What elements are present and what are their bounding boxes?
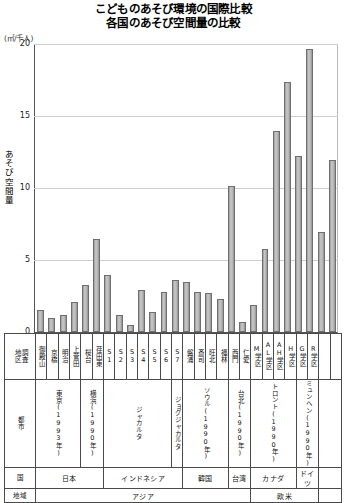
bar-cell — [304, 44, 315, 332]
district-label: 荏田東 — [95, 346, 102, 366]
district-label: 明治 — [61, 349, 68, 363]
bar — [217, 299, 224, 332]
row-header-country: 国 — [5, 468, 36, 489]
district-cell: S1 — [103, 334, 114, 380]
district-cell: H学区 — [285, 334, 296, 380]
bar-cell — [136, 44, 147, 332]
district-cell: S4 — [137, 334, 148, 380]
district-label: AL学区 — [264, 341, 271, 370]
table-row-city: 都市 東京(1993年)横浜(1990年)ジャカルタジョグジャカルタソウル(19… — [5, 380, 342, 468]
city-cell: ジャカルタ — [103, 380, 171, 468]
city-label: 台北(1990年) — [236, 390, 243, 456]
bar — [116, 315, 123, 332]
district-cell: 上菅田 — [69, 334, 80, 380]
table-row-region: 地域 アジア欧米 — [5, 489, 342, 503]
district-label: AH学区 — [276, 341, 283, 370]
bar — [48, 318, 55, 332]
city-cell: ソウル(1990年) — [183, 380, 228, 468]
group-cell: アジア — [36, 489, 251, 503]
bar-cell — [315, 44, 326, 332]
district-cell: S2 — [115, 334, 126, 380]
metadata-table-element: 地区調査 御殿山京橋明治上菅田桜台荏田東S1S2S3S4S5S6S7盤浦斎司旺北… — [4, 333, 342, 503]
city-label: ジョグジャカルタ — [174, 396, 181, 450]
bar-cell — [203, 44, 214, 332]
row-header-region: 地域 — [5, 489, 36, 503]
group-cell: カナダ — [251, 468, 296, 489]
filler-cell — [319, 468, 342, 489]
title-line-2: 各国のあそび空間量の比較 — [0, 16, 347, 30]
bar-cell — [192, 44, 203, 332]
bar — [172, 280, 179, 332]
city-cell: 横浜(1990年) — [81, 380, 104, 468]
bar-cell — [147, 44, 158, 332]
district-label: R学区 — [310, 345, 317, 366]
city-label: ソウル(1990年) — [202, 387, 209, 460]
bar — [284, 82, 291, 332]
bar-cell — [69, 44, 80, 332]
bar-cell — [35, 44, 46, 332]
bar — [104, 275, 111, 332]
city-label: 横浜(1990年) — [89, 390, 96, 456]
bar-cell — [226, 44, 237, 332]
y-axis-tick-10: 10 — [4, 184, 30, 192]
district-cell: 福林 — [217, 334, 228, 380]
page-title: こどものあそび環境の国際比較 各国のあそび空間量の比較 — [0, 2, 347, 30]
group-cell: インドネシア — [103, 468, 182, 489]
bar — [127, 325, 134, 332]
group-cell: ドイツ — [296, 468, 319, 489]
city-cell: 台北(1990年) — [228, 380, 251, 468]
metadata-table: 地区調査 御殿山京橋明治上菅田桜台荏田東S1S2S3S4S5S6S7盤浦斎司旺北… — [4, 333, 342, 503]
row-header-city-label: 都市 — [17, 416, 24, 430]
y-axis-tick-15: 15 — [4, 112, 30, 120]
bar — [71, 302, 78, 332]
district-cell: AH学区 — [273, 334, 284, 380]
bar-cell — [271, 44, 282, 332]
bar — [250, 305, 257, 332]
bar — [262, 249, 269, 332]
district-label: S3 — [129, 348, 136, 364]
bar — [93, 239, 100, 332]
district-label: S2 — [117, 348, 124, 364]
bar — [37, 310, 44, 332]
district-label: 桜台 — [83, 349, 90, 363]
district-cell: R学区 — [307, 334, 318, 380]
city-cell: トロント(1990年) — [251, 380, 296, 468]
district-label: S5 — [151, 348, 158, 364]
district-label: 旺北 — [208, 349, 215, 363]
bar — [60, 315, 67, 332]
district-label: M学区 — [253, 345, 260, 366]
district-cell: 京橋 — [47, 334, 58, 380]
district-cell: S6 — [160, 334, 171, 380]
bar — [183, 282, 190, 332]
bar — [149, 312, 156, 332]
city-cell: ジョグジャカルタ — [171, 380, 182, 468]
bar — [161, 292, 168, 332]
district-cell: 西門 — [228, 334, 239, 380]
y-axis-title: あ そ び 空 間 量 — [3, 150, 15, 205]
district-label: H学区 — [287, 345, 294, 366]
district-cell: 御殿山 — [36, 334, 47, 380]
filler-cell — [319, 380, 342, 468]
row-header-district: 地区調査 — [5, 334, 36, 380]
filler-cell — [319, 489, 342, 503]
bar-cell — [158, 44, 169, 332]
bar — [273, 131, 280, 332]
city-label: トロント(1990年) — [270, 383, 277, 463]
district-label: 仁愛 — [242, 349, 249, 363]
y-axis-tick-5: 5 — [4, 256, 30, 264]
district-cell: 仁愛 — [239, 334, 250, 380]
district-label: 斎司 — [197, 349, 204, 363]
title-line-1: こどものあそび環境の国際比較 — [0, 2, 347, 16]
bar-cell — [327, 44, 338, 332]
bar-cell — [248, 44, 259, 332]
row-header-district-b: 調査 — [20, 349, 27, 363]
district-cell: G学区 — [296, 334, 307, 380]
district-label: 御殿山 — [38, 346, 45, 366]
district-cell: S7 — [171, 334, 182, 380]
city-cell: 東京(1993年) — [36, 380, 81, 468]
bar — [138, 290, 145, 332]
district-label: 西門 — [230, 349, 237, 363]
bar — [205, 293, 212, 332]
district-cell — [330, 334, 341, 380]
